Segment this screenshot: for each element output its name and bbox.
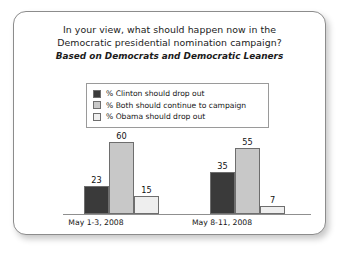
legend-swatch-both: [93, 101, 101, 109]
bar-group-may-8-11: 35 55 7: [210, 136, 285, 214]
bar-obama-may-1-3: 15: [134, 136, 159, 214]
plot-area: 23 60 15 35 55 7: [14, 135, 325, 215]
title-line-2: Democratic presidential nomination campa…: [14, 37, 325, 50]
bar-value-clinton-may-1-3: 23: [84, 175, 109, 185]
bar-rect-both-may-8-11: [235, 148, 260, 214]
x-axis-line: [63, 214, 311, 215]
bar-obama-may-8-11: 7: [260, 136, 285, 214]
x-axis-label-may-8-11: May 8-11, 2008: [167, 218, 277, 227]
chart-legend: % Clinton should drop out % Both should …: [86, 83, 269, 128]
bar-value-clinton-may-8-11: 35: [210, 161, 235, 171]
bar-rect-both-may-1-3: [109, 142, 134, 214]
legend-label-both: % Both should continue to campaign: [106, 101, 246, 110]
x-axis-label-may-1-3: May 1-3, 2008: [41, 218, 151, 227]
legend-label-obama: % Obama should drop out: [106, 112, 205, 121]
bar-rect-clinton-may-1-3: [84, 186, 109, 214]
bar-rect-obama-may-1-3: [134, 196, 159, 214]
legend-item-both: % Both should continue to campaign: [93, 100, 262, 112]
title-block: In your view, what should happen now in …: [14, 24, 325, 64]
chart-subtitle: Based on Democrats and Democratic Leaner…: [14, 50, 325, 64]
bar-both-may-1-3: 60: [109, 136, 134, 214]
title-line-1: In your view, what should happen now in …: [14, 24, 325, 37]
bar-value-both-may-1-3: 60: [109, 131, 134, 141]
bar-value-obama-may-8-11: 7: [260, 195, 285, 205]
legend-label-clinton: % Clinton should drop out: [106, 89, 204, 98]
bar-rect-obama-may-8-11: [260, 206, 285, 214]
bar-both-may-8-11: 55: [235, 136, 260, 214]
bar-group-may-1-3: 23 60 15: [84, 136, 159, 214]
bar-clinton-may-8-11: 35: [210, 136, 235, 214]
bar-clinton-may-1-3: 23: [84, 136, 109, 214]
legend-item-obama: % Obama should drop out: [93, 111, 262, 123]
chart-card: In your view, what should happen now in …: [13, 11, 326, 235]
bar-value-obama-may-1-3: 15: [134, 185, 159, 195]
bar-value-both-may-8-11: 55: [235, 137, 260, 147]
legend-swatch-obama: [93, 113, 101, 121]
bar-rect-clinton-may-8-11: [210, 172, 235, 214]
legend-item-clinton: % Clinton should drop out: [93, 88, 262, 100]
legend-swatch-clinton: [93, 90, 101, 98]
